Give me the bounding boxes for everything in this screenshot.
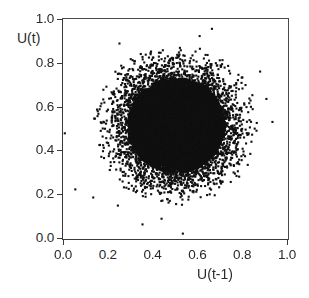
plot-area — [62, 18, 289, 240]
scatter-plot-figure: U(t) 0.00.20.40.60.81.0 0.00.20.40.60.81… — [0, 0, 309, 298]
y-tick-label: 0.6 — [20, 99, 54, 114]
x-tick-label: 0.6 — [177, 247, 217, 262]
y-tick-mark — [57, 150, 62, 151]
y-tick-label: 1.0 — [20, 11, 54, 26]
y-tick-label: 0.4 — [20, 142, 54, 157]
y-tick-label: 0.0 — [20, 230, 54, 245]
x-tick-label: 0.8 — [222, 247, 262, 262]
y-tick-mark — [57, 194, 62, 195]
scatter-point-cloud — [63, 19, 287, 238]
y-tick-mark — [57, 63, 62, 64]
y-tick-label: 0.8 — [20, 55, 54, 70]
x-tick-label: 0.4 — [133, 247, 173, 262]
x-axis-title: U(t-1) — [130, 266, 300, 282]
x-tick-label: 0.2 — [88, 247, 128, 262]
x-tick-mark — [63, 240, 64, 245]
y-axis-title: U(t) — [17, 30, 40, 46]
y-tick-mark — [57, 19, 62, 20]
x-tick-mark — [287, 240, 288, 245]
y-tick-mark — [57, 107, 62, 108]
y-tick-label: 0.2 — [20, 186, 54, 201]
y-tick-mark — [57, 238, 62, 239]
x-tick-label: 0.0 — [43, 247, 83, 262]
x-tick-label: 1.0 — [267, 247, 307, 262]
